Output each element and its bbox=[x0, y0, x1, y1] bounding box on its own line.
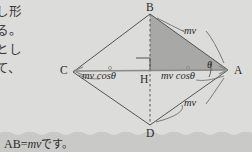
leader-arc-lower-mv-2 bbox=[206, 78, 224, 104]
angle-label-theta: θ bbox=[207, 59, 212, 70]
vertex-label-A: A bbox=[234, 64, 242, 76]
vertex-label-H: H bbox=[140, 73, 148, 85]
caption-suffix: です。 bbox=[41, 138, 73, 151]
vector-label-mv-lower: mv bbox=[184, 97, 196, 108]
component-label-mvcos-right: mv cosθ bbox=[161, 70, 195, 81]
caption-prefix: AB bbox=[4, 137, 21, 151]
leader-right-component bbox=[196, 76, 224, 81]
caption-quantity: mv bbox=[27, 137, 41, 151]
caption-text: AB=mvです。 bbox=[4, 135, 73, 152]
vertex-label-C: C bbox=[60, 64, 68, 76]
right-angle-marker bbox=[136, 58, 150, 71]
scanned-textbook-page: し形 る。 とし て、 B A C D H θ mv mv m bbox=[0, 0, 252, 152]
vertex-label-B: B bbox=[146, 1, 154, 13]
momentum-vector-diagram bbox=[0, 0, 252, 152]
vector-label-mv-upper: mv bbox=[184, 25, 196, 36]
component-label-mvcos-left: mv cosθ bbox=[82, 70, 116, 81]
leader-arc-lower-mv bbox=[156, 105, 182, 122]
vertex-label-D: D bbox=[146, 127, 154, 139]
